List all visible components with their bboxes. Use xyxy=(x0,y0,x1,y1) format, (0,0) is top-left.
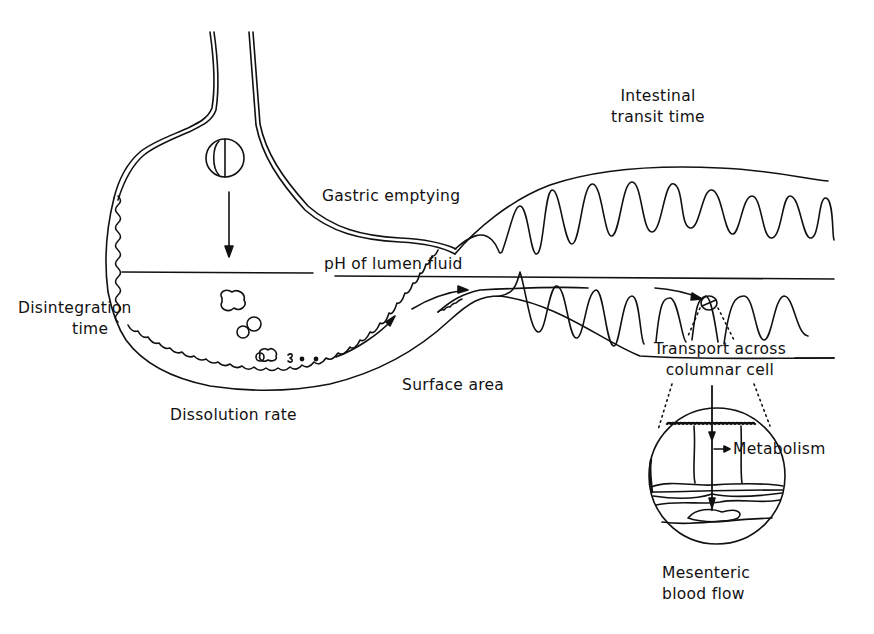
tablet-icon xyxy=(206,139,244,177)
label-metabolism: Metabolism xyxy=(733,439,826,460)
label-gastric-emptying: Gastric emptying xyxy=(322,186,460,207)
lumen-fluid-line xyxy=(122,272,834,279)
label-disintegration-line1: Disintegration xyxy=(18,298,158,319)
small-intestine-lower xyxy=(438,272,808,346)
label-intestinal-line1: Intestinal xyxy=(598,86,718,107)
label-surface-area: Surface area xyxy=(402,375,504,396)
label-disintegration-time: Disintegration time xyxy=(18,298,158,340)
label-transport-across-columnar-cell: Transport across columnar cell xyxy=(630,339,810,381)
label-intestinal-transit-time: Intestinal transit time xyxy=(598,86,718,128)
label-mesenteric-blood-flow: Mesenteric blood flow xyxy=(662,563,750,605)
label-transport-line2: columnar cell xyxy=(630,360,810,381)
disintegrated-granules xyxy=(221,290,318,362)
label-ph-lumen-fluid: pH of lumen fluid xyxy=(324,254,463,275)
label-intestinal-line2: transit time xyxy=(598,107,718,128)
label-mesenteric-line2: blood flow xyxy=(662,584,750,605)
label-mesenteric-line1: Mesenteric xyxy=(662,563,750,584)
label-disintegration-line2: time xyxy=(18,319,158,340)
label-transport-line1: Transport across xyxy=(630,339,810,360)
esophagus xyxy=(114,32,456,254)
small-intestine-upper xyxy=(455,167,834,254)
arrow-down-icon xyxy=(225,192,233,257)
label-dissolution-rate: Dissolution rate xyxy=(170,405,297,426)
